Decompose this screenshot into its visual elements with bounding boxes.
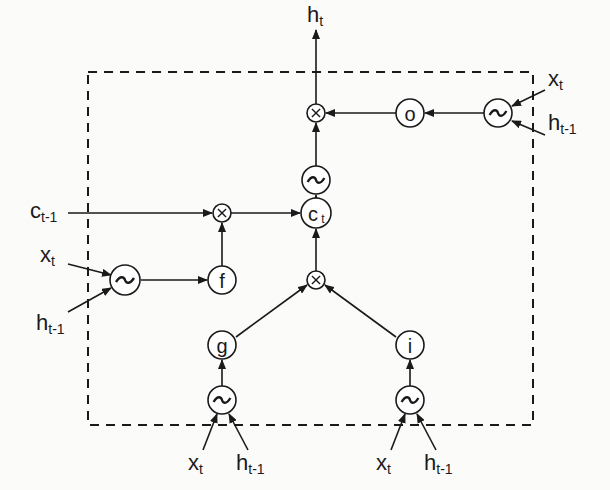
label-h_tm1_o: ht-1 bbox=[548, 110, 577, 137]
node-f: f bbox=[208, 266, 236, 294]
node-o: o bbox=[396, 99, 424, 127]
node-act_c bbox=[302, 166, 330, 194]
label-h_tm1_g: ht-1 bbox=[236, 450, 265, 477]
cell-boundary bbox=[88, 72, 533, 425]
arrow-edge bbox=[229, 414, 248, 450]
arrow-edge bbox=[512, 121, 545, 135]
arrow-edge bbox=[512, 90, 545, 106]
multiply-icon bbox=[213, 204, 231, 222]
node-i: i bbox=[396, 331, 424, 359]
label-x_t_f: xt bbox=[40, 242, 55, 269]
arrow-edge bbox=[68, 264, 111, 275]
node-label: g bbox=[216, 335, 227, 357]
node-act_i bbox=[396, 386, 424, 414]
node-act_f bbox=[110, 265, 140, 295]
label-x_t_i: xt bbox=[376, 450, 391, 477]
dashed-cell-boundary bbox=[88, 72, 533, 425]
diagram-canvas: octfgi htxtht-1ct-1xtht-1xtht-1xtht-1 bbox=[0, 0, 610, 490]
label-h_tm1_i: ht-1 bbox=[424, 450, 453, 477]
node-label: o bbox=[404, 103, 415, 125]
lstm-diagram: octfgi htxtht-1ct-1xtht-1xtht-1xtht-1 bbox=[0, 0, 610, 490]
node-label: c bbox=[308, 203, 318, 225]
node-g: g bbox=[208, 331, 236, 359]
node-act_g bbox=[208, 386, 236, 414]
multiply-icon bbox=[307, 271, 325, 289]
arrow-edge bbox=[203, 414, 217, 450]
label-x_t_o: xt bbox=[548, 66, 563, 93]
node-c_t: ct bbox=[301, 198, 331, 228]
arrow-edge bbox=[325, 285, 396, 337]
labels: htxtht-1ct-1xtht-1xtht-1xtht-1 bbox=[30, 2, 577, 477]
arrow-edge bbox=[391, 414, 405, 450]
label-h_tm1_f: ht-1 bbox=[36, 310, 65, 337]
label-h_t_out: ht bbox=[307, 2, 323, 29]
arrow-edge bbox=[68, 288, 111, 312]
arrow-edge bbox=[236, 285, 307, 337]
label-c_tm1: ct-1 bbox=[30, 198, 58, 225]
arrow-edge bbox=[417, 414, 436, 450]
node-act_o bbox=[484, 99, 512, 127]
edges bbox=[68, 30, 545, 450]
node-label: i bbox=[408, 335, 412, 357]
multiply-icon bbox=[307, 104, 325, 122]
node-label: f bbox=[219, 270, 225, 292]
label-x_t_g: xt bbox=[188, 450, 203, 477]
nodes: octfgi bbox=[110, 99, 512, 414]
